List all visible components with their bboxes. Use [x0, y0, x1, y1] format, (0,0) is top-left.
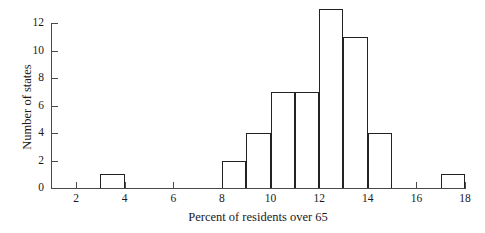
histogram-bar — [222, 161, 246, 189]
x-tick-label-16: 16 — [396, 192, 436, 205]
histogram-chart: 024681012 24681012141618 Percent of resi… — [0, 0, 485, 233]
x-tick-18 — [465, 182, 466, 189]
x-tick-label-18: 18 — [445, 192, 485, 205]
y-tick-0 — [52, 188, 58, 189]
histogram-bar — [295, 92, 319, 188]
y-tick-4 — [52, 133, 58, 134]
histogram-bar — [343, 37, 367, 188]
x-tick-label-4: 4 — [105, 192, 145, 205]
x-tick-label-10: 10 — [251, 192, 291, 205]
x-tick-label-14: 14 — [348, 192, 388, 205]
y-tick-2 — [52, 161, 58, 162]
plot-area: 024681012 24681012141618 Percent of resi… — [0, 0, 485, 233]
x-tick-label-8: 8 — [202, 192, 242, 205]
x-tick-label-6: 6 — [153, 192, 193, 205]
y-tick-8 — [52, 78, 58, 79]
x-axis-line — [51, 188, 465, 189]
histogram-bar — [368, 133, 392, 188]
x-tick-2 — [76, 182, 77, 189]
x-tick-16 — [416, 182, 417, 189]
y-tick-12 — [52, 23, 58, 24]
y-tick-10 — [52, 51, 58, 52]
histogram-bar — [246, 133, 270, 188]
histogram-bar — [441, 174, 465, 188]
histogram-bar — [319, 9, 343, 188]
x-tick-label-2: 2 — [56, 192, 96, 205]
x-tick-4 — [125, 182, 126, 189]
x-tick-label-12: 12 — [299, 192, 339, 205]
x-axis-title: Percent of residents over 65 — [51, 210, 465, 224]
histogram-bar — [100, 174, 124, 188]
y-axis-title: Number of states — [20, 27, 34, 187]
y-tick-6 — [52, 106, 58, 107]
histogram-bar — [271, 92, 295, 188]
x-tick-6 — [173, 182, 174, 189]
